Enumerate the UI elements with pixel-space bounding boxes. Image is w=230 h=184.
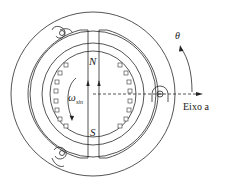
- rotor-slots-right: [118, 63, 132, 128]
- axis-arrow-icon: [196, 92, 203, 96]
- omega-label: ω: [68, 91, 76, 103]
- rotor-slots-left: [54, 63, 68, 128]
- north-pole-label: N: [88, 55, 97, 67]
- pole-piece-left: [28, 30, 88, 158]
- theta-label: θ: [175, 30, 180, 41]
- rotation-arrow-icon: [70, 116, 75, 122]
- arrow-up-icon: [97, 80, 100, 86]
- south-pole-label: S: [90, 126, 96, 138]
- synchronous-machine-diagram: N S ω sin θ Eixo a: [0, 0, 230, 184]
- omega-subscript: sin: [76, 99, 83, 105]
- theta-arrow-icon: [179, 45, 184, 52]
- arrow-up-icon: [86, 80, 89, 86]
- axis-a-label: Eixo a: [183, 101, 209, 112]
- stator-coil-top-left: [52, 26, 72, 38]
- theta-arc: [181, 48, 192, 92]
